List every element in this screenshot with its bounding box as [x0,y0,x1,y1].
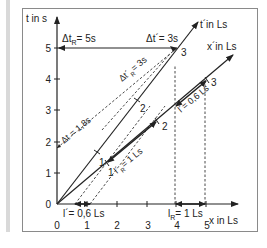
x-tick-5: 5 [204,220,210,231]
delta-tR-label: ΔtR= 5s [62,33,96,46]
t-axis-label: t in s [26,13,47,24]
t-tick-3: 3 [45,105,51,116]
xprime-tick-2: 2 [162,121,168,132]
tprime-axis-label: t´in Ls [200,19,227,30]
x-tick-0: 0 [54,220,60,231]
l-R-label: lR= 1 Ls [168,208,203,221]
l-prime-bottom-label: l´= 0,6 Ls [63,208,104,219]
t-tick-2: 2 [45,137,51,148]
x-tick-3: 3 [145,220,151,231]
x-tick-2: 2 [114,220,120,231]
x-tick-4: 4 [174,220,180,231]
tprime-tick-2: 2 [140,103,146,114]
minkowski-diagram: t in s x in Ls t´in Ls x´in Ls 0 1 2 3 4… [0,0,267,248]
t-tick-1: 1 [45,168,51,179]
delta-tprime-label: Δt´= 3s [146,33,178,44]
tprime-tick-1: 1 [99,157,105,168]
tprime-axis [57,22,198,204]
delta-t-label: Δt = 1,8s [59,115,93,146]
delta-tprime-R-label: Δt´R= 3s [117,54,150,85]
xprime-axis-label: x´in Ls [207,41,236,52]
xprime-tick-3: 3 [211,77,217,88]
t-tick-4: 4 [45,74,51,85]
x-tick-1: 1 [84,220,90,231]
t-tick-5: 5 [45,43,51,54]
x-axis-label: x in Ls [209,215,238,226]
l-prime-R-label: l´R= 1 Ls [112,146,146,177]
t-tick-0: 0 [45,199,51,210]
tprime-tick-3: 3 [181,47,187,58]
